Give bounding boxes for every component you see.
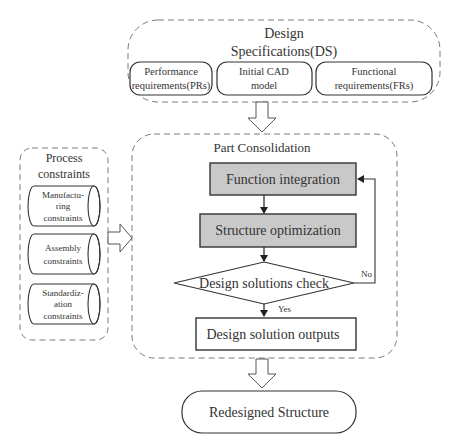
- function-integration-label: Function integration: [226, 172, 340, 187]
- manufacturing-constraints-cylinder: Manufactu- ring constraints: [28, 186, 100, 226]
- structure-optimization-label: Structure optimization: [215, 223, 341, 238]
- standardization-constraints-cylinder: Standardiz- ation constraints: [28, 284, 100, 324]
- prs-line1: Performance: [144, 66, 198, 77]
- design-check-label: Design solutions check: [199, 276, 329, 291]
- redesigned-structure-label: Redesigned Structure: [209, 405, 329, 420]
- manufacturing-line2: ring: [56, 201, 71, 211]
- flowchart: Design Specifications(DS) Performance re…: [0, 0, 457, 448]
- pc-title-line1: Process: [46, 151, 83, 165]
- cad-line2: model: [251, 80, 277, 91]
- design-solution-outputs-label: Design solution outputs: [206, 327, 339, 342]
- manufacturing-line1: Manufactu-: [42, 190, 84, 200]
- manufacturing-line3: constraints: [44, 213, 83, 223]
- ds-title-line1: Design: [264, 26, 304, 41]
- cad-line1: Initial CAD: [239, 66, 289, 77]
- standardization-line2: ation: [54, 299, 72, 309]
- block-arrow-down-2: [248, 359, 276, 388]
- block-arrow-down-1: [248, 102, 276, 132]
- block-arrow-right: [108, 224, 132, 252]
- prs-line2: requirements(PRs): [132, 80, 211, 92]
- part-consolidation-group: Part Consolidation Function integration …: [132, 134, 397, 358]
- feedback-no-line: [354, 179, 375, 283]
- frs-line2: requirements(FRs): [335, 80, 414, 92]
- assembly-line1: Assembly: [45, 243, 82, 253]
- pc-title-line2: constraints: [38, 167, 90, 181]
- yes-label: Yes: [278, 304, 292, 314]
- process-constraints-group: Process constraints Manufactu- ring cons…: [20, 148, 108, 340]
- no-label: No: [361, 269, 372, 279]
- assembly-line2: constraints: [44, 256, 83, 266]
- part-consolidation-title: Part Consolidation: [213, 140, 311, 155]
- assembly-constraints-cylinder: Assembly constraints: [28, 234, 100, 274]
- ds-title-line2: Specifications(DS): [231, 44, 338, 60]
- standardization-line3: constraints: [44, 311, 83, 321]
- standardization-line1: Standardiz-: [42, 288, 83, 298]
- design-specifications-group: Design Specifications(DS) Performance re…: [128, 20, 440, 102]
- frs-line1: Functional: [352, 66, 397, 77]
